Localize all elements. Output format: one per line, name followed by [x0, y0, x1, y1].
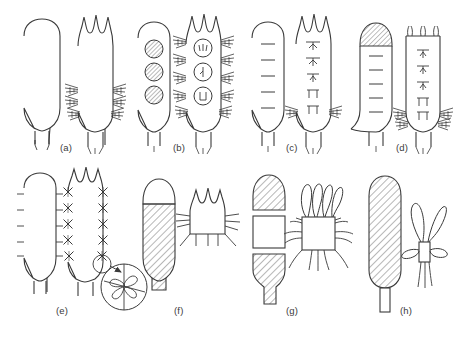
- figure-container: (a) (b) (c) (d) (e) (f) (g) (h): [0, 0, 465, 337]
- panel-label-d: (d): [396, 142, 408, 153]
- panel-label-h: (h): [400, 305, 412, 316]
- hatched-top-segment: [253, 175, 285, 210]
- plate-background: [0, 0, 465, 337]
- panel-label-g: (g): [286, 305, 298, 316]
- panel-label-e: (e): [56, 305, 68, 316]
- specimen-plate-svg: [0, 0, 465, 337]
- fully-hatched-body: [369, 176, 401, 288]
- narrow-box-body: [419, 242, 430, 262]
- hatched-disc: [145, 86, 163, 104]
- hatched-disc: [145, 63, 163, 81]
- rectangular-stalk: [380, 288, 390, 312]
- panel-label-f: (f): [174, 305, 184, 316]
- box-body: [302, 217, 335, 250]
- panel-label-b: (b): [173, 142, 185, 153]
- clear-middle-segment: [253, 216, 285, 248]
- panel-label-a: (a): [60, 142, 72, 153]
- panel-label-c: (c): [286, 142, 298, 153]
- hatched-disc: [145, 40, 163, 58]
